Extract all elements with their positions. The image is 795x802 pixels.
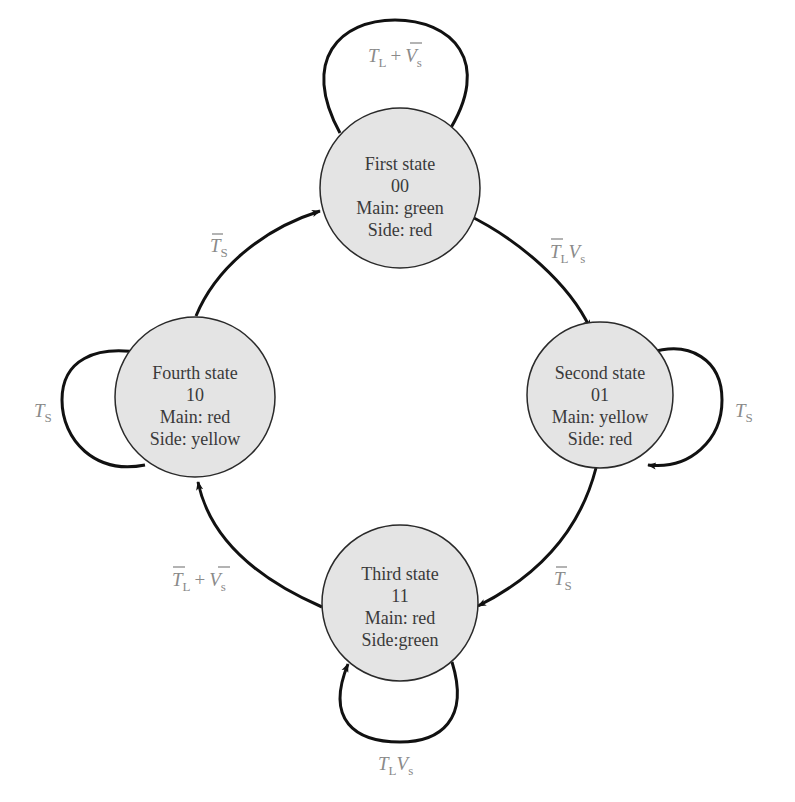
state-main-light: Main: red	[365, 608, 435, 628]
state-name: Third state	[361, 564, 438, 584]
edge-first-to-second	[466, 214, 590, 328]
label-fourth-self-loop: TS	[34, 400, 52, 425]
state-code: 01	[591, 385, 609, 405]
label-fourth-to-first: TS	[210, 234, 228, 260]
state-name: First state	[365, 154, 436, 174]
state-second: Second state 01 Main: yellow Side: red	[527, 322, 673, 468]
state-diagram: First state 00 Main: green Side: red Sec…	[0, 0, 795, 802]
label-second-to-third: TS	[554, 567, 572, 593]
svg-text:TS: TS	[554, 568, 572, 593]
state-third: Third state 11 Main: red Side:green	[322, 525, 478, 681]
label-first-to-second: TLVs	[550, 239, 585, 266]
svg-text:TL+Vs: TL+Vs	[368, 45, 422, 70]
state-first: First state 00 Main: green Side: red	[320, 108, 480, 268]
state-side-light: Side: red	[568, 429, 633, 449]
state-main-light: Main: red	[160, 407, 230, 427]
state-name: Second state	[555, 363, 645, 383]
edge-fourth-to-first	[196, 211, 320, 316]
svg-text:TS: TS	[210, 235, 228, 260]
state-side-light: Side: yellow	[150, 429, 241, 449]
state-main-light: Main: yellow	[552, 407, 649, 427]
label-third-to-fourth: TL+Vs	[172, 567, 230, 594]
label-second-self-loop: TS	[735, 400, 753, 425]
state-main-light: Main: green	[356, 198, 443, 218]
label-first-self-loop: TL+Vs	[368, 43, 422, 70]
state-code: 10	[186, 385, 204, 405]
label-third-self-loop: TLVs	[378, 753, 413, 778]
state-side-light: Side:green	[362, 630, 439, 650]
svg-text:TLVs: TLVs	[378, 753, 413, 778]
state-fourth: Fourth state 10 Main: red Side: yellow	[115, 317, 275, 477]
state-side-light: Side: red	[368, 220, 433, 240]
svg-text:TS: TS	[34, 400, 52, 425]
state-name: Fourth state	[152, 363, 238, 383]
edge-second-to-third	[478, 468, 596, 606]
svg-text:TLVs: TLVs	[550, 241, 585, 266]
svg-text:TL+Vs: TL+Vs	[172, 569, 226, 594]
state-code: 00	[391, 176, 409, 196]
state-code: 11	[391, 586, 408, 606]
svg-text:TS: TS	[735, 400, 753, 425]
